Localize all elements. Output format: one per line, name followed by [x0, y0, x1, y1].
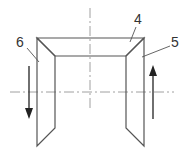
label-6: 6: [16, 34, 24, 50]
label-5: 5: [171, 34, 179, 50]
diagram-canvas: 4 5 6: [0, 0, 195, 156]
down-arrow-icon: [25, 66, 33, 119]
label-4: 4: [134, 11, 142, 27]
leader-5: [142, 46, 170, 57]
leader-4: [130, 27, 136, 42]
